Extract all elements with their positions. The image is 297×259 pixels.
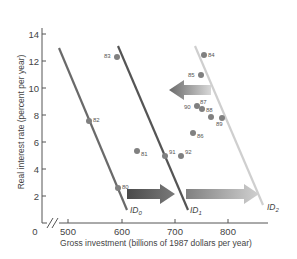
y-tick-labels: 14 12 10 8 6 4 2 [28, 29, 39, 202]
svg-text:700: 700 [167, 226, 183, 237]
arrow-right-icon [186, 184, 259, 204]
arrow-right-icon [127, 184, 175, 204]
svg-text:6: 6 [34, 137, 39, 148]
svg-text:ID1: ID1 [190, 205, 202, 216]
svg-text:85: 85 [188, 72, 195, 78]
svg-text:83: 83 [104, 53, 111, 59]
id2-line [195, 46, 263, 205]
y-axis-label: Real interest rate (percent per year) [16, 55, 26, 190]
svg-text:82: 82 [93, 117, 100, 123]
svg-text:12: 12 [28, 56, 39, 67]
svg-text:ID0: ID0 [130, 205, 143, 216]
svg-text:87: 87 [200, 99, 207, 105]
svg-text:0: 0 [32, 226, 37, 237]
x-axis-label: Gross investment (billions of 1987 dolla… [60, 238, 252, 248]
svg-text:80: 80 [122, 184, 129, 190]
svg-text:500: 500 [60, 226, 76, 237]
svg-text:ID2: ID2 [267, 202, 280, 213]
shift-arrows [127, 80, 259, 204]
svg-text:81: 81 [141, 151, 148, 157]
axis-break-icon [47, 218, 59, 228]
svg-text:86: 86 [197, 133, 204, 139]
svg-text:800: 800 [220, 226, 236, 237]
arrow-left-icon [169, 80, 211, 100]
x-tick-labels: 0 500 600 700 800 [32, 226, 236, 237]
svg-text:10: 10 [28, 83, 39, 94]
svg-text:84: 84 [208, 52, 215, 58]
svg-text:90: 90 [184, 104, 191, 110]
svg-text:4: 4 [34, 164, 39, 175]
svg-text:92: 92 [185, 149, 192, 155]
svg-text:2: 2 [34, 191, 39, 202]
svg-text:91: 91 [169, 149, 176, 155]
data-points [86, 52, 225, 191]
point-labels: 80 81 82 83 84 85 86 87 88 89 90 91 92 [93, 52, 223, 190]
svg-text:88: 88 [206, 107, 213, 113]
svg-text:600: 600 [114, 226, 130, 237]
chart: 14 12 10 8 6 4 2 0 500 600 700 800 Gross… [0, 0, 297, 259]
svg-text:89: 89 [216, 121, 223, 127]
svg-text:8: 8 [34, 110, 39, 121]
line-labels: ID0 ID1 ID2 [130, 202, 280, 216]
svg-text:14: 14 [28, 29, 39, 40]
